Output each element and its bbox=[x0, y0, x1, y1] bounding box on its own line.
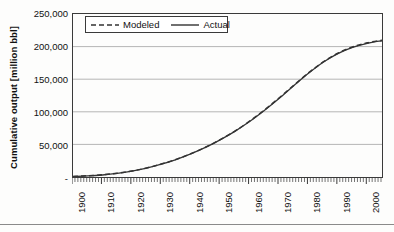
x-tick-1920: 1920 bbox=[135, 192, 146, 213]
page-separator-rule bbox=[0, 224, 394, 225]
legend-entry-modeled: Modeled bbox=[91, 19, 159, 30]
x-tick-1900: 1900 bbox=[76, 192, 87, 213]
x-tick-1940: 1940 bbox=[194, 192, 205, 213]
legend-swatch-dashed bbox=[91, 22, 119, 28]
x-tick-1910: 1910 bbox=[105, 192, 116, 213]
x-tick-1990: 1990 bbox=[341, 192, 352, 213]
x-tick-1950: 1950 bbox=[223, 192, 234, 213]
legend-swatch-solid bbox=[171, 22, 199, 28]
x-tick-2000: 2000 bbox=[370, 192, 381, 213]
x-axis-tick-labels: 1900191019201930194019501960197019801990… bbox=[0, 0, 394, 232]
legend-entry-actual: Actual bbox=[171, 19, 229, 30]
chart-legend: Modeled Actual bbox=[85, 16, 228, 33]
chart-figure: Cumulative output [million bbl] 250,000 … bbox=[0, 0, 394, 232]
legend-label-modeled: Modeled bbox=[123, 19, 159, 30]
x-tick-1930: 1930 bbox=[164, 192, 175, 213]
x-tick-1980: 1980 bbox=[311, 192, 322, 213]
x-tick-1960: 1960 bbox=[253, 192, 264, 213]
x-tick-1970: 1970 bbox=[282, 192, 293, 213]
legend-label-actual: Actual bbox=[203, 19, 229, 30]
